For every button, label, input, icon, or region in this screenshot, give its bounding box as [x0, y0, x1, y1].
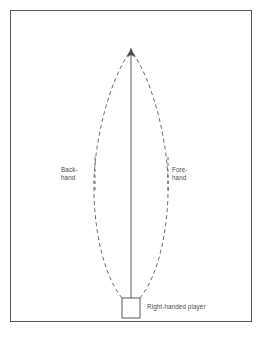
- backhand-coverage-arc: [94, 50, 131, 298]
- right-handed-player-label: Right-handed player: [147, 303, 206, 311]
- backhand-label: Back- hand: [61, 166, 78, 182]
- player-position-box: [122, 298, 140, 318]
- diagram-page: Back- hand Fore- hand Right-handed playe…: [0, 0, 262, 337]
- diagram-graphics: [0, 0, 262, 337]
- forehand-label: Fore- hand: [172, 166, 188, 182]
- forehand-coverage-arc: [131, 50, 168, 298]
